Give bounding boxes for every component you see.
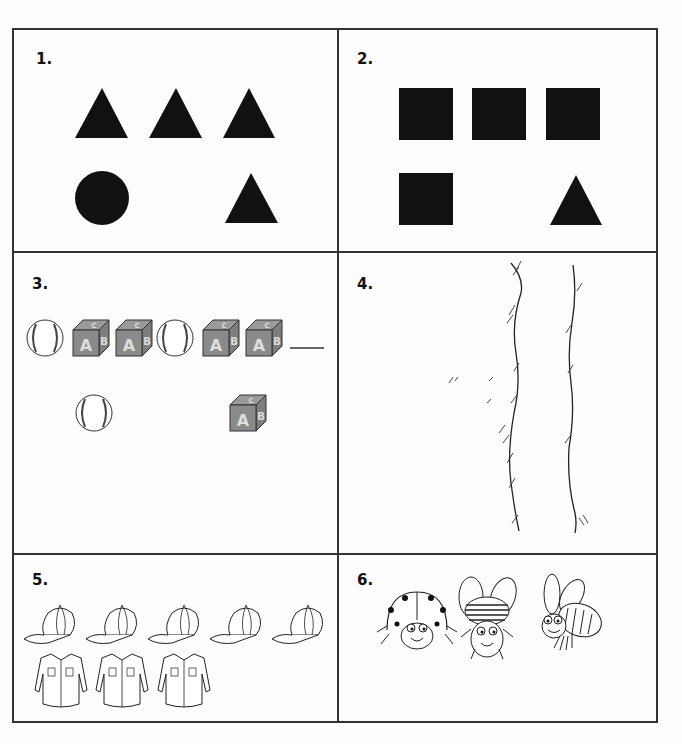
baseball-icon <box>76 395 112 431</box>
abc-block-icon <box>230 395 266 431</box>
shirt-icon <box>158 654 210 707</box>
abc-block-icon <box>246 320 282 356</box>
square-icon <box>399 173 453 225</box>
abc-block-icon <box>73 320 109 356</box>
panel-2: 2. <box>339 30 660 251</box>
cap-icon <box>148 605 199 644</box>
triangle-icon <box>550 175 602 225</box>
pattern-row: A B C <box>14 253 337 553</box>
wavy-lines <box>339 253 660 553</box>
abc-block-icon <box>203 320 239 356</box>
wavy-line <box>569 265 576 533</box>
cap-icon <box>272 605 323 644</box>
square-icon <box>546 88 600 140</box>
baseball-icon <box>27 320 63 356</box>
cap-icon <box>210 605 261 644</box>
circle-icon <box>75 171 129 225</box>
panel-4: 4. <box>339 253 660 553</box>
clothes-group <box>14 555 337 723</box>
cap-icon <box>86 605 137 644</box>
panel-1: 1. <box>14 30 337 251</box>
shirt-icon <box>35 654 87 707</box>
worksheet-grid: 1. 2. 3. <box>12 28 658 723</box>
triangle-icon <box>223 88 275 138</box>
triangle-icon <box>225 173 278 223</box>
panel-5: 5. <box>14 555 337 723</box>
shapes-pattern <box>14 30 337 251</box>
square-icon <box>472 88 526 140</box>
panel-6: 6. <box>339 555 660 723</box>
shapes-pattern <box>339 30 660 251</box>
abc-block-icon <box>116 320 152 356</box>
shirt-icon <box>96 654 148 707</box>
triangle-icon <box>149 88 202 138</box>
triangle-icon <box>75 88 128 138</box>
bugs-group <box>339 555 660 723</box>
square-icon <box>399 88 453 140</box>
baseball-icon <box>157 320 193 356</box>
ladybug-icon <box>377 592 457 649</box>
bee-icon <box>542 574 606 650</box>
panel-3: 3. A B C <box>14 253 337 553</box>
cap-icon <box>24 605 75 644</box>
beetle-icon <box>459 574 521 659</box>
